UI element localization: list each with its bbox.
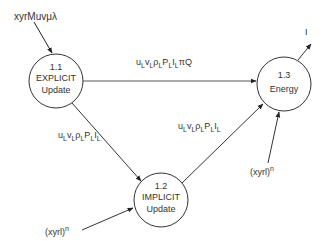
input-label-implicit: (xyrl)n bbox=[45, 228, 69, 237]
energy-input-sup: n bbox=[270, 165, 274, 172]
edge-label-1-1-to-1-3: uLvLρLPLILπQ bbox=[136, 58, 192, 67]
node-1-2-line1: IMPLICIT bbox=[134, 192, 188, 203]
node-1-1-line1: EXPLICIT bbox=[29, 73, 83, 84]
energy-input-base: (xyrl) bbox=[250, 167, 270, 177]
node-1-2-line2: Update bbox=[134, 204, 188, 215]
input-label-explicit: xyrMuvμλ bbox=[14, 12, 57, 22]
node-1-1[interactable]: 1.1 EXPLICIT Update bbox=[29, 62, 83, 96]
input-label-energy: (xyrl)n bbox=[250, 168, 274, 177]
node-1-3[interactable]: 1.3 Energy bbox=[257, 70, 311, 96]
arrow-input-implicit bbox=[82, 208, 133, 230]
edge-label-1-2-to-1-3: uLvLρLPLIL bbox=[178, 122, 221, 131]
node-1-2-number: 1.2 bbox=[134, 181, 188, 192]
output-label-energy: I bbox=[305, 28, 308, 37]
implicit-input-base: (xyrl) bbox=[45, 227, 65, 237]
arrow-input-explicit bbox=[34, 22, 52, 53]
arrow-1-1-to-1-2 bbox=[72, 103, 141, 181]
implicit-input-sup: n bbox=[65, 225, 69, 232]
arrow-input-energy bbox=[268, 112, 279, 163]
edge-label-1-1-to-1-2: uLvLρLPLIL bbox=[58, 131, 101, 140]
node-1-1-number: 1.1 bbox=[29, 62, 83, 73]
node-1-3-number: 1.3 bbox=[257, 70, 311, 81]
node-1-1-line2: Update bbox=[29, 85, 83, 96]
node-1-3-line1: Energy bbox=[257, 84, 311, 95]
node-1-2[interactable]: 1.2 IMPLICIT Update bbox=[134, 181, 188, 215]
arrow-output-energy bbox=[298, 44, 311, 60]
